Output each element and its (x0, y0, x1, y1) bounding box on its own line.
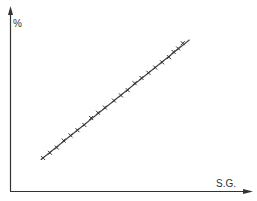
x-axis-arrow-icon (243, 189, 253, 194)
data-markers (41, 41, 185, 160)
data-point-x-marker-icon (112, 99, 116, 103)
x-axis-label: S.G. (216, 179, 236, 189)
y-axis-label: % (13, 19, 22, 29)
data-point-x-marker-icon (153, 66, 157, 70)
data-point-x-marker-icon (82, 123, 86, 127)
data-point-x-marker-icon (75, 128, 79, 132)
y-axis-arrow-icon (8, 6, 13, 15)
data-point-x-marker-icon (69, 133, 73, 137)
data-point-x-marker-icon (41, 156, 45, 160)
data-point-x-marker-icon (146, 71, 150, 75)
scatter-chart (0, 0, 257, 201)
data-point-x-marker-icon (119, 93, 123, 97)
y-axis (8, 6, 13, 191)
x-axis (10, 189, 253, 194)
